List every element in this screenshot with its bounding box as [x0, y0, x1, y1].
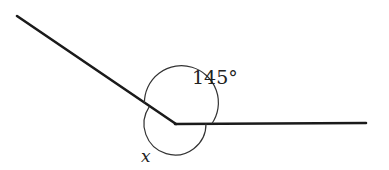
right-ray: [175, 123, 366, 124]
angle-label-145: 145°: [192, 66, 238, 88]
angle-arc-x: [144, 107, 206, 155]
angle-diagram: 145° x: [0, 0, 389, 170]
angle-label-x: x: [141, 146, 151, 166]
left-ray: [17, 16, 176, 124]
